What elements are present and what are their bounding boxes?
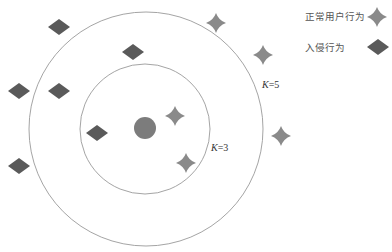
star-icon <box>253 45 273 65</box>
legend-markers <box>367 7 389 55</box>
k3-label: K=3 <box>211 142 228 153</box>
intrusion-points <box>8 19 144 174</box>
diamond-icon <box>8 158 30 174</box>
legend-intrusion-label: 入侵行为 <box>305 42 345 54</box>
legend-star-icon <box>367 7 387 27</box>
star-icon <box>165 106 185 126</box>
star-icon <box>176 153 196 173</box>
diamond-icon <box>8 83 30 99</box>
diamond-icon <box>48 19 70 35</box>
query-point-icon <box>134 117 156 139</box>
k5-label: K=5 <box>262 79 279 90</box>
diamond-icon <box>48 83 70 99</box>
diamond-icon <box>86 125 108 141</box>
legend-diamond-icon <box>367 39 389 55</box>
legend-normal-label: 正常用户行为 <box>305 11 365 23</box>
query-point <box>134 117 156 139</box>
diamond-icon <box>122 44 144 60</box>
knn-diagram <box>0 0 392 252</box>
star-icon <box>271 126 291 146</box>
